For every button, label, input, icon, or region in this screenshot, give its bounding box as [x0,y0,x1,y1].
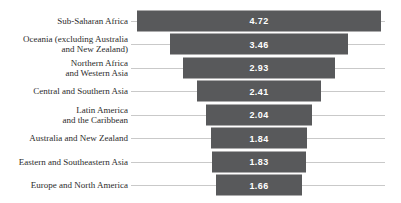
category-label: Northern Africa and Western Asia [0,58,128,78]
chart-row: Central and Southern Asia 2.41 [0,80,401,104]
bar-value-label: 2.41 [249,86,268,96]
category-label: Australia and New Zealand [0,133,128,143]
chart-row: Latin America and the Caribbean 2.04 [0,103,401,127]
bar-value-label: 2.93 [249,63,268,73]
bar: 4.72 [137,10,381,31]
chart-row: Oceania (excluding Australia and New Zea… [0,33,401,57]
bar-value-label: 3.46 [249,39,268,49]
bar-value-label: 1.66 [249,180,268,190]
regional-centered-bar-chart: Sub-Saharan Africa 4.72 Oceania (excludi… [0,0,401,203]
bar-value-label: 1.84 [249,133,268,143]
bar: 3.46 [170,34,349,55]
bar: 2.93 [183,57,334,78]
category-label: Latin America and the Caribbean [0,105,128,125]
bar: 2.41 [197,81,322,102]
category-label: Oceania (excluding Australia and New Zea… [0,34,128,54]
bar: 1.83 [212,151,307,172]
chart-rows: Sub-Saharan Africa 4.72 Oceania (excludi… [0,9,401,197]
chart-row: Australia and New Zealand 1.84 [0,127,401,151]
bar: 2.04 [206,104,311,125]
chart-row: Eastern and Southeastern Asia 1.83 [0,150,401,174]
category-label: Europe and North America [0,180,128,190]
bar-value-label: 4.72 [249,16,268,26]
category-label: Central and Southern Asia [0,86,128,96]
category-label: Sub-Saharan Africa [0,16,128,26]
category-label: Eastern and Southeastern Asia [0,157,128,167]
bar: 1.84 [211,128,306,149]
chart-row: Europe and North America 1.66 [0,174,401,198]
bar: 1.66 [216,175,302,196]
bar-value-label: 2.04 [249,110,268,120]
chart-row: Northern Africa and Western Asia 2.93 [0,56,401,80]
chart-row: Sub-Saharan Africa 4.72 [0,9,401,33]
bar-value-label: 1.83 [249,157,268,167]
